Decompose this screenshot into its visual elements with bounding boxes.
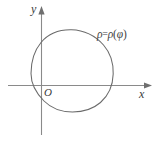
origin-label: O bbox=[44, 87, 52, 98]
curve-label-close-paren: ) bbox=[123, 28, 127, 40]
curve-equation-label: ρ=ρ(φ) bbox=[97, 29, 127, 41]
polar-curve-figure: y x O ρ=ρ(φ) bbox=[0, 0, 155, 142]
figure-canvas bbox=[0, 0, 155, 142]
x-axis-label: x bbox=[139, 88, 144, 100]
x-axis-arrow-icon bbox=[144, 82, 152, 88]
y-axis-label: y bbox=[31, 3, 36, 15]
y-axis-arrow-icon bbox=[38, 6, 44, 15]
rho-phi-curve bbox=[31, 30, 113, 112]
